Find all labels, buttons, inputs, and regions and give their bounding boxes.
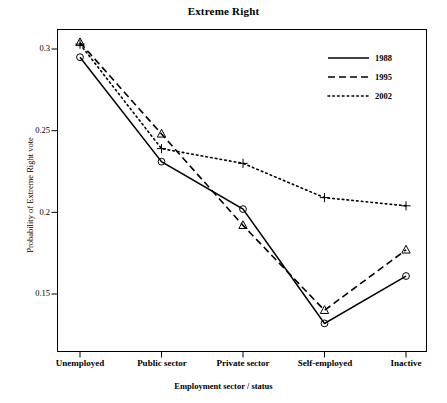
plot-area (0, 0, 447, 403)
legend-sample-lines (328, 58, 369, 96)
plot-frame (58, 30, 427, 352)
data-point-2002-inactive (401, 201, 410, 210)
chart-figure: Extreme Right Probability of Extreme Rig… (0, 0, 447, 403)
series-line-1995 (80, 42, 406, 310)
data-point-2002-public-sector (157, 144, 166, 153)
series-2002 (75, 40, 410, 211)
data-point-1988-unemployed (77, 54, 84, 61)
x-tick-marks (80, 352, 406, 358)
data-point-2002-private-sector (238, 159, 247, 168)
series-1995 (76, 38, 410, 314)
y-tick-marks (52, 49, 58, 294)
data-point-1995-inactive (402, 245, 410, 253)
series-line-1988 (80, 57, 406, 323)
series-line-2002 (80, 44, 406, 206)
series-layer (75, 38, 410, 327)
data-point-2002-self-employed (320, 193, 329, 202)
